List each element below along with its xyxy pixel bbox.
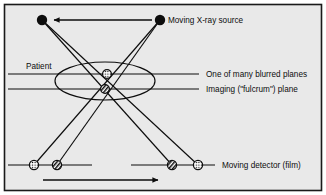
detector-hatched-left-marker — [52, 160, 61, 169]
detector-hatched-right-marker — [167, 160, 176, 169]
source-label: Moving X-ray source — [168, 16, 244, 25]
diagram-canvas: Moving X-ray source Patient One of many … — [0, 0, 326, 195]
blurred-focus-marker — [103, 70, 112, 79]
detector-dotted-right-marker — [193, 160, 202, 169]
fulcrum-focus-marker — [101, 85, 110, 94]
patient-label: Patient — [26, 62, 52, 71]
source-left-dot — [37, 15, 47, 25]
blurred-plane-label: One of many blurred planes — [206, 70, 307, 79]
fulcrum-plane-label: Imaging ("fulcrum") plane — [206, 85, 298, 94]
tomography-diagram-figure: Moving X-ray source Patient One of many … — [0, 0, 326, 195]
detector-dotted-left-marker — [29, 160, 38, 169]
detector-label: Moving detector (film) — [222, 161, 301, 170]
source-right-dot — [155, 15, 165, 25]
